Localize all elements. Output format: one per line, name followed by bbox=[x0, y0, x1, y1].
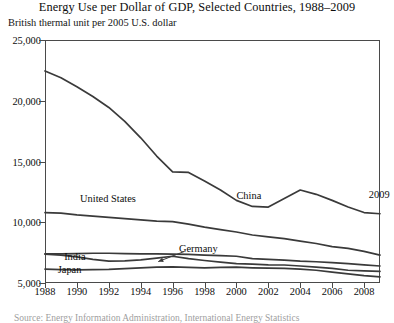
series-label-japan: Japan bbox=[58, 264, 82, 275]
y-tick-label: 10,000 bbox=[12, 217, 41, 228]
x-tick-label: 2000 bbox=[226, 286, 247, 297]
x-axis: 1988199019921994199619982000200220042006… bbox=[45, 286, 380, 302]
y-axis: 25,00020,00015,00010,0005,000 bbox=[0, 40, 41, 283]
x-tick-label: 1992 bbox=[98, 286, 119, 297]
x-tick-label: 2004 bbox=[290, 286, 311, 297]
plot-area: China2009United StatesIndiaGermanyJapan bbox=[45, 40, 380, 283]
x-tick-label: 1998 bbox=[194, 286, 215, 297]
x-tick-label: 1996 bbox=[162, 286, 183, 297]
y-tick-label: 25,000 bbox=[12, 35, 41, 46]
y-axis-unit-label: British thermal unit per 2005 U.S. dolla… bbox=[8, 17, 177, 28]
series-label-china: China bbox=[236, 190, 261, 201]
x-tick-label: 2006 bbox=[322, 286, 343, 297]
chart-title: Energy Use per Dollar of GDP, Selected C… bbox=[0, 0, 394, 15]
x-tick-label: 1988 bbox=[35, 286, 56, 297]
source-note: Source: Energy Information Administratio… bbox=[14, 313, 299, 323]
x-tick-label: 1994 bbox=[130, 286, 151, 297]
y-tick-label: 20,000 bbox=[12, 95, 41, 106]
x-tick-label: 1990 bbox=[67, 286, 88, 297]
series-label-2009: 2009 bbox=[369, 189, 390, 200]
series-line-china bbox=[45, 71, 380, 214]
x-tick-label: 2008 bbox=[354, 286, 375, 297]
x-tick-label: 2002 bbox=[258, 286, 279, 297]
series-label-united-states: United States bbox=[80, 193, 136, 204]
y-tick-label: 15,000 bbox=[12, 156, 41, 167]
series-label-germany: Germany bbox=[179, 243, 218, 254]
series-label-india: India bbox=[64, 251, 85, 262]
